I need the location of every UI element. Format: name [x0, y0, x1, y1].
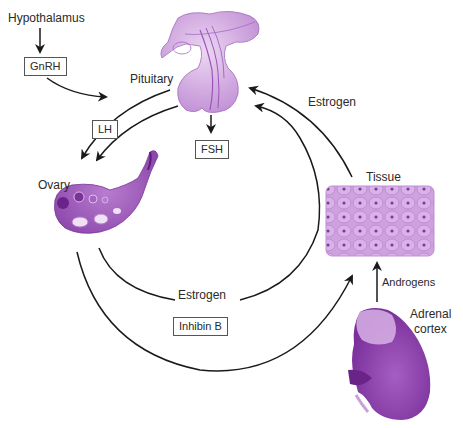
adrenal-label-line2: cortex — [414, 322, 447, 336]
hypothalamus-label: Hypothalamus — [8, 11, 85, 25]
gnrh-box: GnRH — [24, 57, 67, 76]
androgens-label: Androgens — [382, 276, 435, 288]
ovary-to-tissue-arrow — [77, 252, 352, 371]
pituitary-illustration — [161, 11, 259, 112]
inhibin-b-box: Inhibin B — [173, 317, 228, 336]
gnrh-to-pituitary-arrow — [47, 78, 106, 97]
diagram-canvas — [0, 0, 463, 428]
estrogen-top-label: Estrogen — [308, 95, 356, 109]
ovary-illustration — [54, 151, 158, 234]
ovary-label: Ovary — [38, 178, 70, 192]
adrenal-label-line1: Adrenal — [410, 307, 451, 321]
fsh-box: FSH — [195, 140, 229, 159]
lh-box: LH — [92, 120, 118, 139]
tissue-illustration — [326, 186, 434, 256]
tissue-label: Tissue — [366, 170, 401, 184]
estrogen-bottom-label: Estrogen — [178, 288, 226, 302]
pituitary-label: Pituitary — [130, 72, 173, 86]
